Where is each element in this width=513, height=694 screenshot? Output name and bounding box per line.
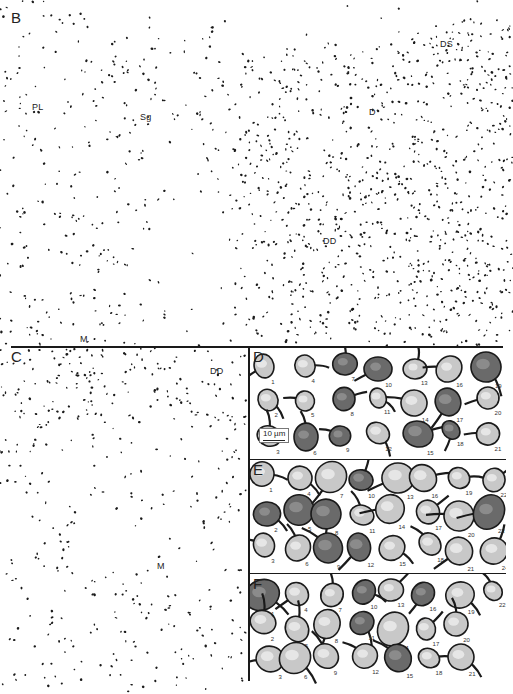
region-label-dd-c: DD [210, 367, 223, 376]
svg-text:8: 8 [335, 638, 339, 644]
svg-text:6: 6 [313, 450, 317, 456]
svg-text:7: 7 [339, 607, 343, 613]
svg-text:22: 22 [501, 492, 506, 498]
svg-text:3: 3 [271, 558, 275, 564]
svg-text:20: 20 [463, 637, 470, 643]
scale-bar-label: 10 µm [263, 429, 285, 438]
svg-text:20: 20 [495, 410, 502, 416]
svg-text:4: 4 [307, 491, 311, 497]
svg-text:2: 2 [271, 636, 275, 642]
svg-text:15: 15 [406, 673, 413, 679]
svg-text:18: 18 [436, 670, 443, 676]
svg-text:19: 19 [495, 383, 502, 389]
panel-e-neuron-drawings: 123456789101112131415161718192021222324 [250, 460, 506, 573]
region-label-m-c: M [157, 562, 165, 571]
panel-b-cell-dot-map [0, 0, 513, 346]
svg-text:3: 3 [276, 449, 280, 455]
svg-text:11: 11 [384, 409, 391, 415]
svg-text:1: 1 [271, 379, 275, 385]
svg-text:16: 16 [456, 382, 463, 388]
scale-bar: 10 µm [259, 428, 289, 443]
panel-f-neuron-drawings: 12345678910111213141516171819202122 [250, 574, 506, 684]
svg-text:12: 12 [385, 446, 392, 452]
svg-text:21: 21 [495, 446, 502, 452]
svg-text:14: 14 [398, 524, 405, 530]
svg-text:22: 22 [499, 602, 506, 608]
svg-text:10: 10 [385, 382, 392, 388]
svg-text:1: 1 [269, 487, 273, 493]
svg-text:19: 19 [468, 609, 475, 615]
svg-text:3: 3 [278, 674, 282, 680]
svg-text:10: 10 [368, 493, 375, 499]
panel-label-e: E [253, 462, 263, 477]
region-label-sg: Sg [140, 113, 151, 122]
scale-bar-line [263, 440, 285, 441]
svg-text:16: 16 [431, 493, 438, 499]
svg-text:5: 5 [311, 412, 315, 418]
svg-text:21: 21 [469, 671, 476, 677]
svg-text:12: 12 [372, 669, 379, 675]
panel-b: B PL Sg DS D DD M [0, 0, 513, 346]
svg-text:6: 6 [304, 674, 308, 680]
panel-c-cell-dot-map [0, 348, 248, 694]
svg-text:15: 15 [399, 561, 406, 567]
svg-text:11: 11 [369, 528, 376, 534]
svg-text:2: 2 [274, 527, 278, 533]
region-label-dd: DD [323, 237, 336, 246]
svg-text:4: 4 [304, 607, 308, 613]
region-label-ds: DS [440, 40, 453, 49]
panel-c: C DD M [0, 348, 248, 694]
region-label-pl: PL [32, 103, 43, 112]
svg-text:17: 17 [456, 417, 463, 423]
svg-text:7: 7 [340, 493, 344, 499]
panel-f: 12345678910111213141516171819202122 F [250, 574, 506, 684]
svg-text:24: 24 [502, 565, 506, 571]
svg-text:10: 10 [371, 604, 378, 610]
svg-text:4: 4 [312, 378, 316, 384]
svg-text:9: 9 [334, 670, 338, 676]
panel-label-b: B [11, 10, 21, 25]
svg-text:6: 6 [305, 561, 309, 567]
svg-text:17: 17 [433, 641, 440, 647]
svg-text:12: 12 [367, 562, 374, 568]
svg-text:18: 18 [457, 441, 464, 447]
panel-e: 123456789101112131415161718192021222324 … [250, 460, 506, 573]
region-label-d: D [369, 108, 376, 117]
svg-text:16: 16 [430, 606, 437, 612]
svg-text:13: 13 [407, 494, 414, 500]
svg-text:19: 19 [466, 490, 473, 496]
panel-d: 123456789101112131415161718192021 D 10 µ… [250, 348, 506, 459]
svg-text:9: 9 [346, 447, 350, 453]
svg-text:21: 21 [467, 566, 474, 572]
region-label-m: M [80, 335, 88, 344]
svg-text:15: 15 [427, 450, 434, 456]
svg-text:20: 20 [468, 532, 475, 538]
svg-text:13: 13 [421, 380, 428, 386]
svg-text:8: 8 [351, 411, 355, 417]
panel-label-c: C [11, 349, 22, 364]
svg-text:2: 2 [275, 412, 279, 418]
svg-text:17: 17 [435, 525, 442, 531]
panel-label-f: F [253, 576, 262, 591]
panel-label-d: D [253, 349, 264, 364]
svg-text:13: 13 [398, 602, 405, 608]
